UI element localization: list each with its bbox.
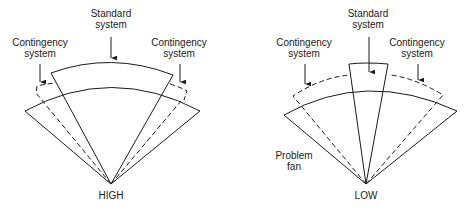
low-standard-label: Standard system [339,8,397,30]
high-contingency-left-label: Contingency system [8,37,72,59]
high-contingency-right [111,84,187,184]
high-diagram [25,37,200,184]
high-standard-sector [51,62,173,184]
high-apex-label: HIGH [91,190,131,201]
high-contingency-left [36,83,111,184]
low-apex-label: LOW [346,190,386,201]
diagram-canvas [0,0,468,211]
low-contingency-left-label: Contingency system [272,37,336,59]
low-contingency-right-label: Contingency system [385,37,449,59]
high-contingency-right-label: Contingency system [147,37,211,59]
high-problem-fan [25,88,200,185]
high-standard-label: Standard system [82,8,140,30]
low-problem-fan-label: Problem fan [270,150,318,172]
